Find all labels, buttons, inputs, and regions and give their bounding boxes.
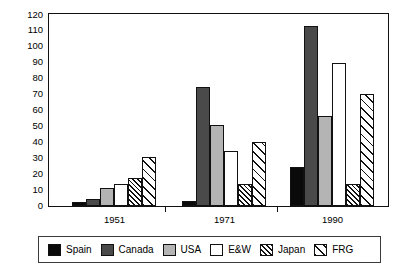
legend-item-frg[interactable]: FRG xyxy=(305,237,353,262)
x-axis-tick-label-1990: 1990 xyxy=(322,215,343,225)
bar-japan-1951 xyxy=(128,178,142,205)
legend-item-japan[interactable]: Japan xyxy=(251,237,305,262)
bar-japan-1971 xyxy=(238,184,252,205)
bar-chart-figure: 0102030405060708090100110120 19511971199… xyxy=(0,0,419,274)
x-axis-tick-label-1951: 1951 xyxy=(104,215,125,225)
y-axis: 0102030405060708090100110120 xyxy=(0,0,48,212)
bar-usa-1971 xyxy=(210,125,224,205)
legend-item-label: E&W xyxy=(228,245,251,255)
legend-swatch-usa xyxy=(163,244,176,256)
x-axis-tick-label-1971: 1971 xyxy=(214,215,235,225)
bar-e-w-1971 xyxy=(224,151,238,205)
y-axis-tick-label: 90 xyxy=(32,58,43,68)
bar-frg-1971 xyxy=(252,142,266,206)
y-axis-tick-label: 10 xyxy=(32,185,43,195)
bar-spain-1990 xyxy=(290,167,304,205)
bar-usa-1951 xyxy=(100,188,114,206)
x-axis: 195119711990 xyxy=(48,207,389,231)
legend-item-label: Spain xyxy=(66,245,92,255)
bar-usa-1990 xyxy=(318,116,332,205)
legend-item-label: USA xyxy=(181,245,202,255)
legend-item-spain[interactable]: Spain xyxy=(39,237,92,262)
legend-item-canada[interactable]: Canada xyxy=(92,237,154,262)
chart-legend: SpainCanadaUSAE&WJapanFRG xyxy=(38,236,381,263)
bar-japan-1990 xyxy=(346,184,360,205)
y-axis-tick-label: 120 xyxy=(27,10,43,20)
legend-swatch-ew xyxy=(210,244,223,256)
y-axis-tick-label: 20 xyxy=(32,169,43,179)
legend-swatch-frg xyxy=(314,244,327,256)
legend-item-label: Canada xyxy=(119,245,154,255)
y-axis-tick-label: 100 xyxy=(27,42,43,52)
y-axis-tick-label: 50 xyxy=(32,121,43,131)
legend-item-label: Japan xyxy=(278,245,305,255)
legend-swatch-spain xyxy=(48,244,61,256)
x-axis-separator-tick xyxy=(277,207,278,212)
y-axis-tick-label: 0 xyxy=(38,201,43,211)
y-axis-tick-label: 70 xyxy=(32,89,43,99)
bar-group-1971 xyxy=(182,15,268,206)
legend-item-e-w[interactable]: E&W xyxy=(201,237,251,262)
y-axis-tick-label: 30 xyxy=(32,153,43,163)
bar-frg-1990 xyxy=(360,94,374,205)
bar-spain-1971 xyxy=(182,201,196,206)
bar-canada-1971 xyxy=(196,87,210,206)
legend-item-usa[interactable]: USA xyxy=(154,237,202,262)
y-axis-tick-label: 60 xyxy=(32,105,43,115)
bar-group-1990 xyxy=(290,15,376,206)
bar-spain-1951 xyxy=(72,202,86,205)
y-axis-tick-label: 110 xyxy=(28,26,43,36)
legend-swatch-japan xyxy=(260,244,273,256)
bar-canada-1951 xyxy=(86,199,100,205)
y-axis-tick-label: 80 xyxy=(32,73,43,83)
bar-e-w-1990 xyxy=(332,63,346,205)
x-axis-separator-tick xyxy=(165,207,166,212)
legend-swatch-canada xyxy=(101,244,114,256)
legend-item-label: FRG xyxy=(332,245,353,255)
y-axis-tick-label: 40 xyxy=(32,137,43,147)
bar-e-w-1951 xyxy=(114,184,128,205)
bar-group-1951 xyxy=(72,15,158,206)
bar-frg-1951 xyxy=(142,157,156,206)
bar-canada-1990 xyxy=(304,26,318,206)
bars-layer xyxy=(50,15,388,206)
